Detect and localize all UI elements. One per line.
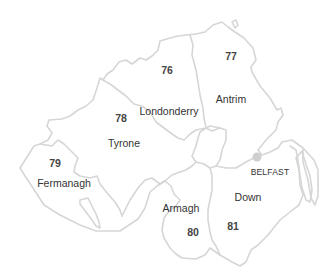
county-map: 76 Londonderry 77 Antrim 78 Tyrone 79 Fe…	[0, 0, 329, 276]
county-value-armagh: 80	[187, 226, 199, 238]
county-label-tyrone: Tyrone	[108, 137, 140, 149]
county-label-antrim: Antrim	[216, 93, 246, 105]
county-value-tyrone: 78	[115, 112, 127, 124]
rathlin-island	[232, 20, 238, 28]
county-label-londonderry: Londonderry	[140, 105, 199, 117]
city-label-belfast: BELFAST	[251, 167, 290, 177]
county-value-londonderry: 76	[161, 64, 173, 76]
county-label-fermanagh: Fermanagh	[37, 177, 91, 189]
county-value-down: 81	[227, 220, 239, 232]
county-value-fermanagh: 79	[49, 157, 61, 169]
border-armagh-down	[208, 168, 220, 255]
county-label-down: Down	[235, 191, 262, 203]
county-label-armagh: Armagh	[163, 202, 200, 214]
city-marker-belfast	[253, 153, 262, 162]
lough-neagh	[192, 128, 226, 168]
lough-erne	[80, 198, 100, 228]
border-antrim-lough	[206, 126, 220, 128]
county-borders	[0, 0, 329, 276]
county-value-antrim: 77	[225, 50, 237, 62]
